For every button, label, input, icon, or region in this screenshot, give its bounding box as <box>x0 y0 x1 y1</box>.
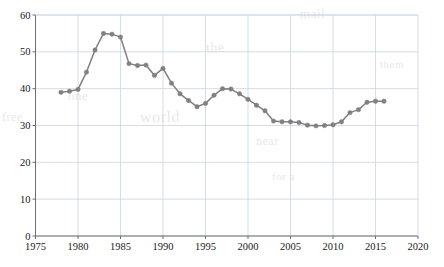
data-point-marker <box>305 123 309 127</box>
data-line <box>61 33 384 125</box>
data-point-marker <box>365 100 369 104</box>
data-point-marker <box>339 120 343 124</box>
data-point-marker <box>314 124 318 128</box>
data-point-marker <box>178 92 182 96</box>
x-tick-label: 2020 <box>408 241 429 252</box>
x-tick-label: 1990 <box>153 241 174 252</box>
data-point-marker <box>203 101 207 105</box>
data-point-marker <box>288 120 292 124</box>
data-point-marker <box>246 97 250 101</box>
x-tick-label: 1985 <box>110 241 131 252</box>
data-point-marker <box>280 120 284 124</box>
grid-lines <box>36 15 419 236</box>
data-markers <box>59 31 386 128</box>
data-point-marker <box>271 119 275 123</box>
y-tick-label: 30 <box>20 120 31 131</box>
y-tick-label: 0 <box>25 231 30 242</box>
chart-svg: 1975198019851990199520002005201020152020… <box>0 0 444 267</box>
series-line <box>61 33 384 125</box>
y-tick-label: 40 <box>20 83 31 94</box>
data-point-marker <box>220 86 224 90</box>
data-point-marker <box>144 63 148 67</box>
y-tick-label: 50 <box>20 46 31 57</box>
data-point-marker <box>237 92 241 96</box>
data-point-marker <box>331 123 335 127</box>
data-point-marker <box>110 32 114 36</box>
data-point-marker <box>59 90 63 94</box>
data-point-marker <box>356 107 360 111</box>
data-point-marker <box>76 87 80 91</box>
x-tick-label: 2010 <box>323 241 344 252</box>
data-point-marker <box>348 110 352 114</box>
x-tick-label: 1980 <box>68 241 89 252</box>
data-point-marker <box>135 63 139 67</box>
data-point-marker <box>322 123 326 127</box>
data-point-marker <box>101 31 105 35</box>
y-axis-tick-labels: 0102030405060 <box>20 10 36 242</box>
x-tick-label: 2000 <box>238 241 259 252</box>
x-tick-label: 2015 <box>365 241 386 252</box>
data-point-marker <box>152 73 156 77</box>
data-point-marker <box>229 87 233 91</box>
line-chart: mailtheoneworldfreenearfor athem 1975198… <box>0 0 444 267</box>
x-tick-label: 2005 <box>280 241 301 252</box>
data-point-marker <box>84 70 88 74</box>
data-point-marker <box>263 109 267 113</box>
data-point-marker <box>186 98 190 102</box>
data-point-marker <box>93 48 97 52</box>
data-point-marker <box>195 105 199 109</box>
x-tick-label: 1995 <box>195 241 216 252</box>
data-point-marker <box>67 89 71 93</box>
x-axis-tick-labels: 1975198019851990199520002005201020152020 <box>25 236 429 252</box>
y-tick-label: 20 <box>20 157 31 168</box>
data-point-marker <box>254 103 258 107</box>
data-point-marker <box>382 99 386 103</box>
data-point-marker <box>212 93 216 97</box>
data-point-marker <box>373 99 377 103</box>
y-tick-label: 10 <box>20 194 31 205</box>
data-point-marker <box>297 120 301 124</box>
data-point-marker <box>118 35 122 39</box>
y-tick-label: 60 <box>20 10 31 21</box>
data-point-marker <box>161 66 165 70</box>
data-point-marker <box>169 81 173 85</box>
x-tick-label: 1975 <box>25 241 46 252</box>
data-point-marker <box>127 61 131 65</box>
